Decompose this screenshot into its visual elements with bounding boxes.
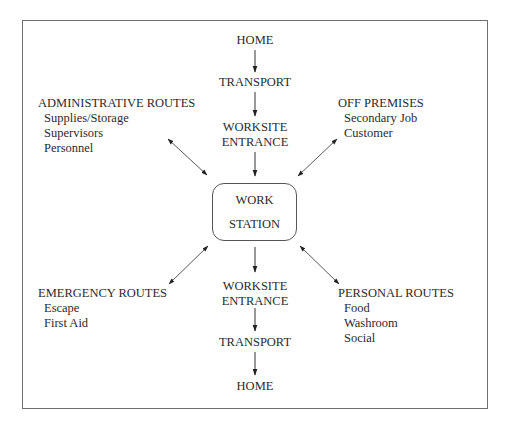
work-station-node: WORK STATION xyxy=(212,183,297,241)
inbound-entrance-line1: WORKSITE xyxy=(222,120,289,135)
work-station-line2: STATION xyxy=(213,217,296,232)
personal-item: Food xyxy=(344,301,370,316)
administrative-item: Supervisors xyxy=(44,126,103,141)
outbound-transport-label: TRANSPORT xyxy=(219,335,291,350)
inbound-entrance-label: WORKSITE ENTRANCE xyxy=(222,120,289,150)
outbound-entrance-label: WORKSITE ENTRANCE xyxy=(222,279,289,309)
off-premises-item: Customer xyxy=(344,126,393,141)
emergency-routes-heading: EMERGENCY ROUTES xyxy=(38,286,167,301)
outbound-entrance-line2: ENTRANCE xyxy=(222,294,289,309)
work-station-line1: WORK xyxy=(213,193,296,208)
off-premises-item: Secondary Job xyxy=(344,111,417,126)
personal-item: Washroom xyxy=(344,316,398,331)
administrative-routes-heading: ADMINISTRATIVE ROUTES xyxy=(38,96,195,111)
inbound-entrance-line2: ENTRANCE xyxy=(222,135,289,150)
emergency-item: Escape xyxy=(44,301,79,316)
personal-item: Social xyxy=(344,331,375,346)
inbound-home-label: HOME xyxy=(237,33,274,48)
outbound-entrance-line1: WORKSITE xyxy=(222,279,289,294)
administrative-item: Personnel xyxy=(44,141,93,156)
administrative-item: Supplies/Storage xyxy=(44,111,129,126)
off-premises-heading: OFF PREMISES xyxy=(338,96,424,111)
inbound-transport-label: TRANSPORT xyxy=(219,75,291,90)
personal-routes-heading: PERSONAL ROUTES xyxy=(338,286,454,301)
emergency-item: First Aid xyxy=(44,316,88,331)
outbound-home-label: HOME xyxy=(237,379,274,394)
